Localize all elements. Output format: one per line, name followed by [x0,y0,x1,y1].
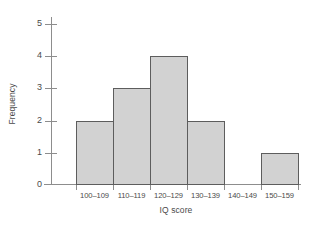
x-tick-mark-0 [76,185,77,190]
bar-150-159 [261,153,299,185]
histogram-chart: Frequency 0 1 2 3 4 5 100–109 110– [0,0,312,228]
x-tick-mark-2 [150,185,151,190]
x-tick-mark-6 [298,185,299,190]
x-tick-mark-3 [187,185,188,190]
x-tick-mark-1 [113,185,114,190]
x-tick-mark-5 [261,185,262,190]
x-axis-title: IQ score [51,205,301,215]
bar-130-139 [187,121,225,185]
x-tick-mark-4 [224,185,225,190]
bar-110-119 [113,88,151,185]
bar-100-109 [76,121,114,185]
x-tick-label-150-159: 150–159 [258,191,302,201]
bar-120-129 [150,56,188,185]
